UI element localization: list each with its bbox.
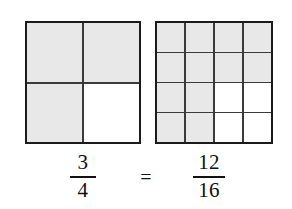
grid-cell bbox=[215, 23, 242, 52]
grid-cell bbox=[157, 53, 184, 82]
fraction-three-fourths: 3 4 bbox=[70, 152, 96, 201]
grid-cell bbox=[186, 53, 213, 82]
grid-cell bbox=[244, 83, 271, 112]
grid-cell bbox=[157, 83, 184, 112]
fraction-numerator: 12 bbox=[197, 152, 221, 173]
twelve-sixteenths-area-model bbox=[155, 21, 273, 144]
three-fourths-area-model bbox=[25, 21, 141, 144]
grid-cell bbox=[157, 113, 184, 142]
grid-cell bbox=[244, 113, 271, 142]
grid-cell bbox=[215, 83, 242, 112]
grid-cell bbox=[244, 23, 271, 52]
grid-cell bbox=[244, 53, 271, 82]
grid-cell bbox=[84, 84, 139, 143]
grid-cell bbox=[215, 53, 242, 82]
grid-cell bbox=[157, 23, 184, 52]
grid-cell bbox=[186, 23, 213, 52]
fraction-denominator: 16 bbox=[197, 180, 221, 201]
equivalent-fractions-figure: 3 4 = 12 16 bbox=[0, 0, 292, 209]
equation-row: 3 4 = 12 16 bbox=[0, 152, 292, 204]
grid-cell bbox=[215, 113, 242, 142]
grid-cell bbox=[27, 23, 82, 82]
grid-cell bbox=[186, 113, 213, 142]
fraction-numerator: 3 bbox=[77, 152, 90, 173]
grid-cell bbox=[27, 84, 82, 143]
grid-cell bbox=[186, 83, 213, 112]
four-by-four-grid bbox=[155, 21, 273, 144]
grid-cell bbox=[84, 23, 139, 82]
equals-sign: = bbox=[135, 167, 157, 187]
two-by-two-grid bbox=[25, 21, 141, 144]
fraction-twelve-sixteenths: 12 16 bbox=[193, 152, 225, 201]
fraction-denominator: 4 bbox=[77, 180, 90, 201]
